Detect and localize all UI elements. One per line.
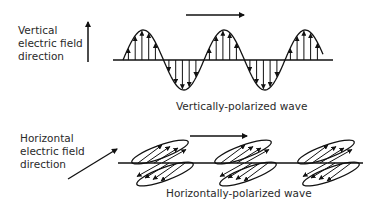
horizontal-direction-arrow [68,149,117,179]
polarization-diagram [0,0,389,216]
